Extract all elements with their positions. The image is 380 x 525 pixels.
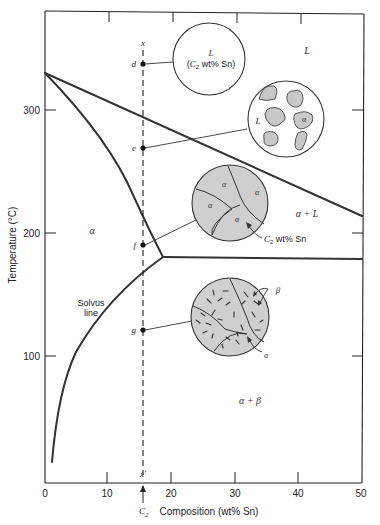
solvus-line [52, 257, 163, 462]
x-tick-50: 50 [355, 488, 367, 499]
microstructure-d: L (C2 wt% Sn) [173, 23, 245, 95]
microstructure-f: α α α α C2 wt% Sn [192, 165, 306, 245]
svg-text:(C2 wt% Sn): (C2 wt% Sn) [187, 59, 235, 70]
top-ticks [109, 12, 301, 24]
svg-text:β: β [275, 285, 281, 295]
phase-diagram: 300 200 100 0 10 20 30 40 50 Temperature… [0, 0, 380, 525]
bottom-ticks [107, 472, 298, 483]
svg-text:C2 wt% Sn: C2 wt% Sn [264, 234, 306, 245]
x-tick-20: 20 [165, 488, 177, 499]
x-axis-title: Composition (wt% Sn) [160, 506, 259, 517]
solvus-label-line1: Solvus [77, 298, 105, 308]
microstructure-g: β α [191, 278, 281, 360]
svg-text:L: L [254, 116, 260, 126]
left-ticks [45, 110, 56, 356]
point-g: g [132, 321, 193, 335]
y-tick-100: 100 [23, 351, 40, 362]
c2-marker-label: C2 [139, 506, 149, 519]
svg-text:α: α [264, 351, 269, 360]
y-axis-title: Temperature (°C) [7, 207, 18, 284]
svg-text:e: e [132, 143, 136, 153]
eutectic-isotherm [163, 257, 362, 259]
point-e: e [132, 129, 247, 153]
label-x-top: x [140, 38, 145, 48]
right-ticks [352, 110, 363, 356]
region-label-liquid: L [303, 45, 310, 56]
svg-text:g: g [132, 325, 137, 335]
y-tick-300: 300 [23, 105, 40, 116]
x-tick-40: 40 [292, 488, 304, 499]
x-tick-30: 30 [229, 488, 241, 499]
region-label-alpha-plus-liquid: α + L [296, 208, 319, 219]
point-d: d [132, 59, 174, 69]
solvus-label-line2: line [84, 308, 98, 318]
x-tick-0: 0 [42, 488, 48, 499]
svg-text:L: L [207, 48, 213, 58]
x-tick-10: 10 [101, 488, 113, 499]
region-label-alpha-plus-beta: α + β [239, 395, 261, 406]
label-x-bottom: x' [139, 469, 147, 479]
c2-arrow-icon [140, 485, 146, 503]
y-tick-200: 200 [23, 228, 40, 239]
svg-text:f: f [133, 240, 137, 250]
microstructure-e: L α [248, 81, 324, 157]
svg-text:d: d [132, 59, 137, 69]
region-label-alpha: α [89, 225, 95, 236]
